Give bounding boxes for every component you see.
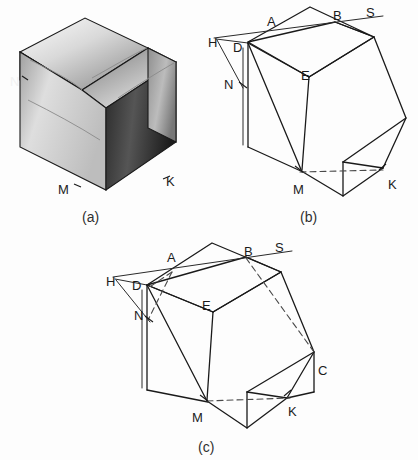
vertex-label-D-b: D xyxy=(233,40,242,55)
hidden-edge-MK-c xyxy=(207,398,290,401)
edge-C-corner-c xyxy=(287,352,314,398)
edge-E-down-c xyxy=(207,312,213,400)
edge-left-diag-b xyxy=(248,43,302,172)
vertex-label-C-c: C xyxy=(318,363,327,378)
vertex-label-A-b: A xyxy=(267,14,276,29)
edge-left-body-c xyxy=(147,390,208,402)
vertex-label-D-c: D xyxy=(132,278,141,293)
vertex-label-B-c: B xyxy=(244,244,253,259)
vertex-label-B-b: B xyxy=(333,8,342,23)
panel-caption-c: (c) xyxy=(198,439,214,455)
figure-container: N M K (a) xyxy=(0,0,418,460)
vertex-label-K-c: K xyxy=(288,404,297,419)
edge-slope-DE-b xyxy=(248,43,309,77)
edge-bottom-right-b xyxy=(343,162,383,168)
vertex-label-N-b: N xyxy=(224,77,233,92)
vertex-label-H-c: H xyxy=(106,274,115,289)
hidden-edge-MK-b xyxy=(300,170,383,172)
vertex-label-H-b: H xyxy=(208,35,217,50)
vertex-label-S-c: S xyxy=(275,240,284,255)
panel-caption-a: (a) xyxy=(82,209,99,225)
vertex-label-N-c: N xyxy=(134,308,143,323)
vertex-label-M-c: M xyxy=(192,410,203,425)
edge-E-down-b xyxy=(302,77,309,170)
panel-caption-b: (b) xyxy=(300,209,317,225)
edge-C-to-bottom-c xyxy=(287,392,314,398)
construction-line-HS-b xyxy=(214,16,383,38)
tick-M-a xyxy=(74,184,81,187)
panel-b-line-drawing: H D A B S N E M K (b) xyxy=(208,5,406,225)
vertex-label-K-a: K xyxy=(166,174,175,189)
edge-left-diag-c xyxy=(147,285,207,401)
edge-top-face-b xyxy=(248,22,374,77)
edge-bottom-right-c xyxy=(247,392,287,398)
vertex-label-M-a: M xyxy=(58,182,69,197)
vertex-label-M-b: M xyxy=(293,182,304,197)
hidden-edge-AD-c xyxy=(148,272,172,288)
vertex-label-E-b: E xyxy=(301,68,310,83)
edge-right-face-c xyxy=(281,272,314,392)
vertex-label-A-c: A xyxy=(167,250,176,265)
technical-figure: N M K (a) xyxy=(0,0,418,460)
vertex-label-S-b: S xyxy=(366,5,375,20)
vertex-label-N-a: N xyxy=(10,74,19,89)
edge-right-face-b xyxy=(374,37,406,168)
face-right xyxy=(148,48,176,142)
edge-E-right-b xyxy=(309,37,374,77)
vertex-label-E-c: E xyxy=(202,298,211,313)
vertex-label-K-b: K xyxy=(388,177,397,192)
edge-right-lower-c xyxy=(247,352,314,392)
construction-line-HS-c xyxy=(113,251,292,277)
panel-a-shaded-solid: N M K (a) xyxy=(10,18,176,225)
edge-left-body-b xyxy=(248,147,303,172)
construction-ray-HD-b xyxy=(216,39,248,43)
panel-c-line-drawing: H D A B S N E C M K (c) xyxy=(106,240,327,455)
